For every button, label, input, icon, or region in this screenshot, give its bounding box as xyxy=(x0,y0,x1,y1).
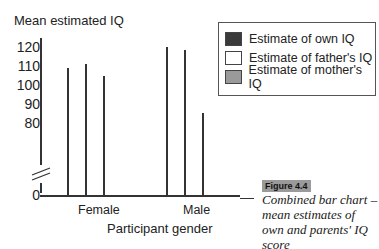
bar-male-mother xyxy=(202,113,204,195)
bar-female-father xyxy=(85,64,87,195)
y-tick-100: 100 xyxy=(14,78,40,92)
x-tick-male: Male xyxy=(183,203,210,217)
y-tick-0: 0 xyxy=(14,188,40,202)
legend-swatch-mother xyxy=(225,70,242,84)
bar-female-mother xyxy=(103,76,105,195)
legend: Estimate of own IQ Estimate of father's … xyxy=(218,22,376,96)
legend-swatch-father xyxy=(225,51,242,65)
y-tick-90: 90 xyxy=(14,97,40,111)
figure-tag: Figure 4.4 xyxy=(262,180,311,192)
y-tick-80: 80 xyxy=(14,116,40,130)
bar-male-father xyxy=(184,50,186,195)
x-axis-label: Participant gender xyxy=(107,221,213,236)
y-tick-110: 110 xyxy=(14,59,40,73)
y-axis-label: Mean estimated IQ xyxy=(14,13,124,28)
x-axis-line xyxy=(40,195,240,197)
figure-caption: Combined bar chart – mean estimates of o… xyxy=(262,192,379,249)
legend-label-own: Estimate of own IQ xyxy=(249,32,355,46)
axis-break-icon xyxy=(30,165,52,183)
legend-item-mother: Estimate of mother's IQ xyxy=(225,69,375,85)
y-tick-120: 120 xyxy=(14,40,40,54)
bar-male-own xyxy=(166,47,168,195)
legend-swatch-own xyxy=(225,32,242,46)
x-tick-female: Female xyxy=(78,203,120,217)
bar-female-own xyxy=(67,68,69,195)
legend-label-mother: Estimate of mother's IQ xyxy=(249,63,375,91)
legend-item-own: Estimate of own IQ xyxy=(225,31,355,47)
caption-rule xyxy=(240,198,254,199)
